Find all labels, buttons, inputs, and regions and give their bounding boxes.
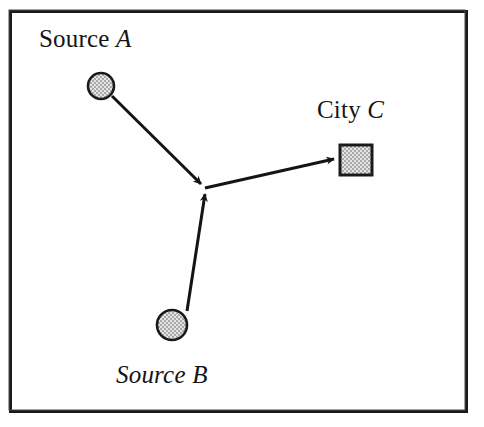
edge-junction-to-city-c [205,159,334,188]
diagram-canvas [0,0,484,427]
label-source-a-roman: Source [39,25,110,52]
edge-source-a-to-junction [112,96,201,184]
label-source-b-italic: Source B [116,361,208,388]
figure-diagram: Source A City C Source B [0,0,484,427]
label-source-a: Source A [39,26,132,51]
node-source-a [88,73,114,99]
frame-border [9,10,467,412]
edge-source-b-to-junction [187,194,205,311]
label-city-c-italic: C [367,96,384,123]
caption-fragment [352,415,482,427]
node-source-b [157,310,187,340]
label-source-b: Source B [116,362,208,387]
node-city-c [340,145,372,175]
label-city-c-roman: City [317,96,361,123]
label-source-a-italic: A [116,25,131,52]
label-city-c: City C [317,97,384,122]
